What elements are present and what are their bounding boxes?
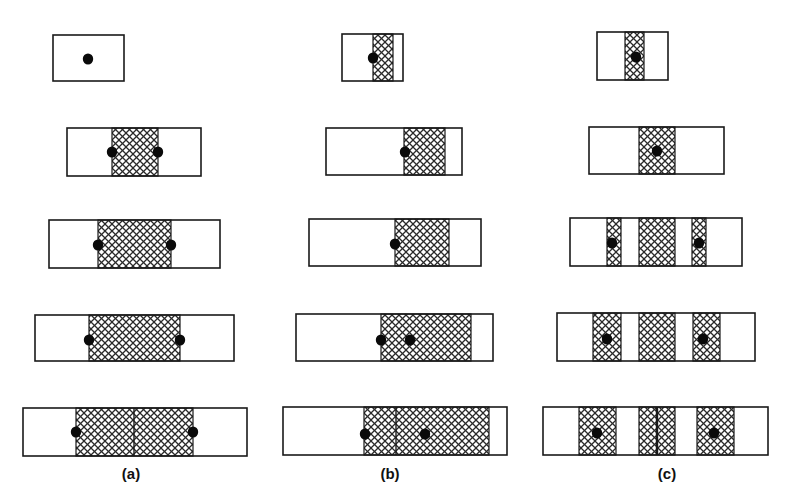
cell-row-2	[67, 128, 201, 176]
dot-marker	[405, 334, 415, 345]
hatched-region	[89, 315, 180, 361]
panel-c	[543, 32, 768, 455]
cell-row-2	[326, 128, 462, 175]
diagram-canvas	[0, 0, 792, 504]
dot-marker	[93, 239, 103, 250]
cell-row-5	[283, 407, 507, 455]
cell-row-4	[35, 315, 234, 361]
dot-marker	[390, 238, 400, 249]
cell-row-4	[296, 314, 493, 361]
dot-marker	[607, 237, 617, 248]
panel-b	[283, 34, 507, 455]
dot-marker	[175, 334, 185, 345]
dot-marker	[631, 51, 641, 62]
dot-marker	[360, 428, 370, 439]
dot-marker	[188, 426, 198, 437]
dot-marker	[694, 237, 704, 248]
cell-row-3	[309, 219, 481, 266]
dot-marker	[602, 333, 612, 344]
dot-marker	[166, 239, 176, 250]
dot-marker	[709, 427, 719, 438]
cell-row-5	[23, 408, 247, 456]
dot-marker	[592, 427, 602, 438]
hatched-region	[639, 218, 675, 266]
cell-row-5	[543, 407, 768, 455]
panel-a	[23, 35, 247, 456]
dot-marker	[698, 333, 708, 344]
hatched-region	[381, 314, 471, 361]
dot-marker	[376, 334, 386, 345]
cell-row-4	[557, 313, 755, 361]
dot-marker	[400, 146, 410, 157]
cell-row-3	[570, 218, 742, 266]
dot-marker	[83, 53, 93, 64]
cell-row-1	[53, 35, 124, 81]
hatched-region	[395, 219, 449, 266]
panel-label-a: (a)	[122, 465, 140, 482]
hatched-region	[98, 220, 171, 268]
dot-marker	[652, 145, 662, 156]
panel-label-b: (b)	[380, 465, 399, 482]
hatched-region	[639, 313, 675, 361]
dot-marker	[420, 428, 430, 439]
dot-marker	[84, 334, 94, 345]
panels-layer	[23, 32, 768, 456]
panel-label-c: (c)	[658, 465, 676, 482]
dot-marker	[107, 146, 117, 157]
hatched-region	[112, 128, 158, 176]
cell-row-2	[589, 127, 724, 174]
dot-marker	[71, 426, 81, 437]
dot-marker	[368, 52, 378, 63]
dot-marker	[153, 146, 163, 157]
cell-row-1	[342, 34, 403, 81]
cell-row-1	[597, 32, 668, 80]
cell-row-3	[49, 220, 220, 268]
